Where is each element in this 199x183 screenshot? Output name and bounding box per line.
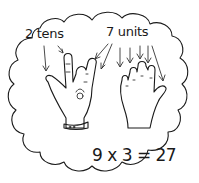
units-label: 7 units	[106, 24, 148, 39]
equation-label: 9 x 3 = 27	[92, 145, 176, 165]
tens-label: 2 tens	[25, 26, 64, 41]
right-hand-icon	[121, 62, 166, 129]
left-hand-icon	[46, 54, 96, 130]
arrow-icon	[43, 44, 165, 81]
